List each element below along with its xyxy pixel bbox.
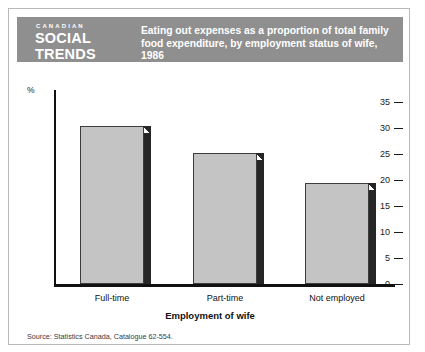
logo-name-line1: SOCIAL (35, 31, 127, 46)
y-axis-tick-label: 35 (374, 97, 390, 107)
publication-logo: CANADIAN SOCIAL TRENDS (35, 22, 127, 62)
bar-side-shadow (369, 190, 376, 284)
bar-not-employed (305, 183, 376, 284)
y-axis-tick-mark (394, 206, 403, 207)
y-axis-line (54, 90, 56, 286)
x-axis-category-label: Part-time (163, 293, 287, 303)
y-axis-tick-label: 10 (374, 227, 390, 237)
logo-name-line2: TRENDS (35, 47, 127, 62)
bar-face (305, 183, 369, 284)
x-axis-category-label: Not employed (275, 293, 399, 303)
bar-face (80, 126, 144, 284)
bar-full-time (80, 126, 151, 284)
x-axis-title: Employment of wife (17, 310, 403, 321)
source-note: Source: Statistics Canada, Catalogue 62-… (27, 332, 173, 341)
y-axis-tick-label: 5 (374, 253, 390, 263)
y-axis-tick-mark (394, 102, 403, 103)
plot-area: % 35 30 25 20 15 10 5 0 (17, 62, 403, 320)
y-axis-tick-label: 25 (374, 149, 390, 159)
y-axis-tick-mark (394, 180, 403, 181)
bar-side-shadow (144, 133, 151, 284)
bar-side-shadow (257, 160, 264, 284)
y-axis-tick-mark (394, 232, 403, 233)
y-axis-tick-mark (394, 128, 403, 129)
logo-eyebrow: CANADIAN (35, 22, 127, 30)
y-axis-unit-label: % (27, 85, 35, 95)
x-axis-baseline (54, 284, 395, 287)
y-axis-tick: 25 (365, 149, 403, 159)
y-axis-tick-label: 15 (374, 201, 390, 211)
y-axis-tick: 30 (365, 123, 403, 133)
y-axis-tick-mark (394, 284, 403, 285)
y-axis-tick-mark (394, 258, 403, 259)
x-axis-category-label: Full-time (50, 293, 174, 303)
bar-part-time (193, 153, 264, 284)
chart-title-line1: Eating out expenses as a proportion of t… (141, 25, 391, 38)
chart-header-band: CANADIAN SOCIAL TRENDS Eating out expens… (17, 17, 403, 62)
bar-face (193, 153, 257, 284)
y-axis-tick-mark (394, 154, 403, 155)
y-axis-tick: 35 (365, 97, 403, 107)
y-axis-tick-label: 30 (374, 123, 390, 133)
y-axis-tick-label: 20 (374, 175, 390, 185)
chart-title-line2: food expenditure, by employment status o… (141, 38, 391, 63)
chart-figure: CANADIAN SOCIAL TRENDS Eating out expens… (8, 8, 410, 345)
chart-title: Eating out expenses as a proportion of t… (141, 25, 391, 63)
